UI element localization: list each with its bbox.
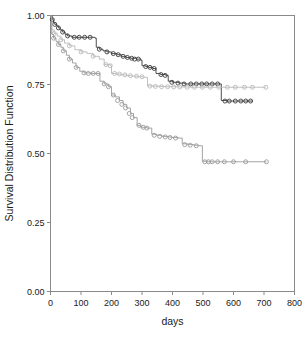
x-axis-title: days [161, 315, 183, 327]
x-tick-label: 300 [134, 298, 149, 308]
y-axis-title: Survival Distribution Function [3, 85, 15, 221]
x-tick-label: 600 [226, 298, 241, 308]
y-tick-label: 0.75 [27, 80, 45, 90]
x-tick-label: 500 [195, 298, 210, 308]
x-tick-label: 700 [256, 298, 271, 308]
chart-canvas: 0.000.250.500.751.00 0100200300400500600… [0, 0, 307, 343]
y-tick-label: 0.00 [27, 287, 45, 297]
x-tick-label: 200 [104, 298, 119, 308]
x-tick-labels: 0100200300400500600700800 [48, 298, 302, 308]
survival-chart: 0.000.250.500.751.00 0100200300400500600… [0, 0, 307, 343]
x-tick-label: 0 [48, 298, 53, 308]
y-tick-label: 1.00 [27, 11, 45, 21]
y-tick-label: 0.50 [27, 149, 45, 159]
x-tick-label: 800 [287, 298, 302, 308]
y-tick-label: 0.25 [27, 218, 45, 228]
x-tick-label: 100 [73, 298, 88, 308]
x-tick-label: 400 [165, 298, 180, 308]
